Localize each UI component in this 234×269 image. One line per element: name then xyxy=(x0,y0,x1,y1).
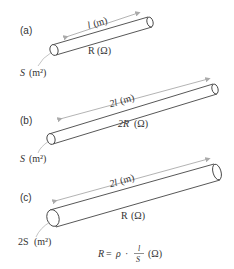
length-unit-a: (m) xyxy=(92,14,109,30)
resistance-label-a: R xyxy=(88,45,95,56)
formula-dot: · xyxy=(125,248,128,259)
resistance-formula: R = ρ · l S (Ω) xyxy=(97,244,162,264)
area-unit-b: (m²) xyxy=(29,153,46,165)
area-leader-c xyxy=(36,222,50,237)
area-label-c: 2S xyxy=(18,236,29,247)
cylinder-body-b xyxy=(49,84,217,144)
area-unit-a: (m²) xyxy=(29,67,46,79)
resistance-label-c: R xyxy=(121,210,128,221)
area-leader-a xyxy=(38,52,52,66)
area-label-b: S xyxy=(20,153,25,164)
length-label-b: 2l xyxy=(108,96,119,109)
resistance-diagram: (a) l (m) R (Ω) S (m²) (b) 2l (m) 2R (Ω) xyxy=(0,0,234,269)
length-label-a: l xyxy=(86,19,92,30)
panel-c: (c) 2l (m) R (Ω) 2S (m²) xyxy=(18,159,223,248)
resistance-unit-a: (Ω) xyxy=(97,45,111,57)
length-unit-b: (m) xyxy=(119,92,136,108)
resistance-unit-c: (Ω) xyxy=(131,210,145,222)
resistance-label-b: 2R xyxy=(118,118,129,129)
formula-equals: = xyxy=(106,248,112,259)
formula-denominator: S xyxy=(136,255,140,264)
formula-unit: (Ω) xyxy=(148,248,162,260)
panel-a: (a) l (m) R (Ω) S (m²) xyxy=(20,13,154,79)
area-unit-c: (m²) xyxy=(34,236,51,248)
formula-lhs: R xyxy=(97,248,104,259)
area-label-a: S xyxy=(20,67,25,78)
panel-label-b: (b) xyxy=(20,115,32,126)
formula-numerator: l xyxy=(138,244,141,253)
panel-label-c: (c) xyxy=(20,192,32,203)
panel-label-a: (a) xyxy=(20,25,32,36)
area-leader-b xyxy=(38,141,49,153)
length-unit-c: (m) xyxy=(119,172,136,188)
formula-rho: ρ xyxy=(115,248,121,259)
panel-b: (b) 2l (m) 2R (Ω) S (m²) xyxy=(20,79,219,165)
length-label-c: 2l xyxy=(108,176,119,189)
resistance-unit-b: (Ω) xyxy=(134,118,148,130)
